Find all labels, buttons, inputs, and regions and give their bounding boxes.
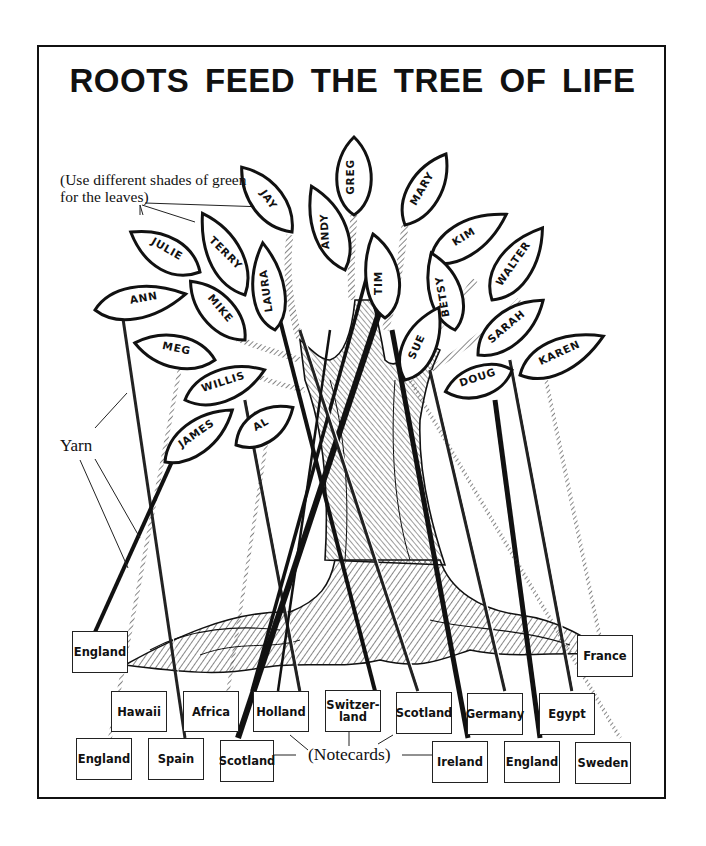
notecard-scotland-2: Scotland	[220, 740, 274, 782]
notecard-england-1: England	[72, 631, 128, 673]
notecard-egypt: Egypt	[539, 693, 595, 735]
notecard-ireland: Ireland	[432, 741, 488, 783]
notecard-england-2: England	[76, 738, 132, 780]
notecard-africa: Africa	[183, 691, 239, 732]
leaf-ann: ANN	[92, 279, 188, 326]
leaf-mary: MARY	[391, 146, 460, 233]
notecard-england-3: England	[504, 741, 560, 783]
leaf-greg: GREG	[337, 137, 372, 215]
leaves-color-note: (Use different shades of green for the l…	[60, 171, 260, 205]
notecard-spain: Spain	[148, 738, 204, 780]
notecard-holland: Holland	[253, 691, 309, 732]
leaf-julie: JULIE	[122, 218, 208, 287]
notecard-sweden: Sweden	[575, 742, 631, 784]
leaf-laura: LAURA	[246, 241, 289, 333]
leaf-label-tim: TIM	[372, 271, 384, 295]
notecard-switzerland: Switzer- land	[325, 690, 381, 732]
notecard-germany: Germany	[467, 693, 523, 735]
notecard-hawaii: Hawaii	[111, 691, 167, 732]
yarn-label: Yarn	[60, 437, 92, 454]
notecards-label: (Notecards)	[308, 746, 391, 763]
leaf-label-andy: ANDY	[317, 213, 331, 249]
notecard-france: France	[577, 635, 633, 677]
leaf-meg: MEG	[132, 328, 219, 376]
leaf-doug: DOUG	[441, 356, 517, 406]
notecard-scotland-1: Scotland	[396, 692, 452, 734]
leaf-label-greg: GREG	[344, 159, 356, 195]
